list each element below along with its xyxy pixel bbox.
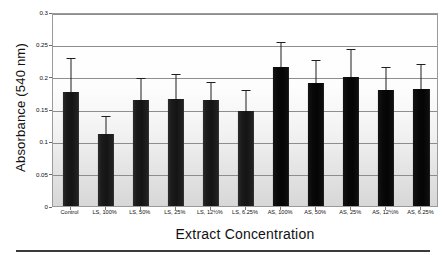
- error-bar-cap: [66, 58, 75, 59]
- x-axis-tick-mark: [350, 207, 351, 210]
- bar: [98, 134, 114, 206]
- x-axis-tick-mark: [210, 207, 211, 210]
- x-axis-tick-label: Control: [52, 210, 87, 216]
- error-bar-cap: [382, 67, 391, 68]
- bar-group: [299, 12, 334, 206]
- bar-group: [193, 12, 228, 206]
- bar-group: [264, 12, 299, 206]
- x-axis-tick-mark: [420, 207, 421, 210]
- x-axis-tick-mark: [140, 207, 141, 210]
- bar-group: [334, 12, 369, 206]
- error-bar-whisker: [316, 61, 317, 82]
- error-bar-whisker: [70, 59, 71, 91]
- footer-rule: [16, 250, 430, 252]
- x-axis-tick-label: LS, 50%: [122, 210, 157, 216]
- error-bar-cap: [171, 74, 180, 75]
- x-axis-tick-mark: [245, 207, 246, 210]
- y-axis-tick-label: 0: [8, 204, 48, 210]
- bar-chart-figure: Absorbance (540 nm) 00.050.10.150.20.250…: [0, 0, 446, 255]
- y-axis-tick-label: 0.3: [8, 10, 48, 16]
- error-bar-whisker: [140, 79, 141, 100]
- bar-group: [369, 12, 404, 206]
- x-axis-tick-label: AS, 100%: [263, 210, 298, 216]
- x-axis-tick-mark: [105, 207, 106, 210]
- bar-series: [53, 14, 437, 206]
- error-bar-whisker: [421, 65, 422, 89]
- bar: [273, 67, 289, 206]
- x-axis-tick-mark: [385, 207, 386, 210]
- bar-group: [404, 12, 439, 206]
- error-bar-whisker: [351, 50, 352, 77]
- error-bar-whisker: [281, 43, 282, 67]
- error-bar-cap: [101, 116, 110, 117]
- error-bar-whisker: [210, 83, 211, 100]
- error-bar-cap: [417, 64, 426, 65]
- error-bar-cap: [136, 78, 145, 79]
- error-bar-whisker: [175, 75, 176, 99]
- bar: [308, 83, 324, 207]
- x-axis-tick-mark: [175, 207, 176, 210]
- plot-area: [52, 13, 438, 207]
- x-axis-tick-label: LS, 6.25%: [227, 210, 262, 216]
- x-axis-tick-label: LS, 25%: [157, 210, 192, 216]
- x-axis-tick-label: AS, 12½%: [368, 210, 403, 216]
- error-bar-whisker: [105, 117, 106, 134]
- bar: [203, 100, 219, 206]
- error-bar-whisker: [245, 91, 246, 111]
- x-axis-tick-mark: [315, 207, 316, 210]
- bar: [238, 111, 254, 206]
- bar-group: [53, 12, 88, 206]
- y-axis-tick-label: 0.2: [8, 75, 48, 81]
- x-axis-tick-mark: [70, 207, 71, 210]
- y-axis-tick-label: 0.25: [8, 42, 48, 48]
- x-axis-tick-label: AS, 50%: [298, 210, 333, 216]
- x-axis-title: Extract Concentration: [52, 226, 438, 242]
- error-bar-cap: [312, 60, 321, 61]
- x-axis-tick-mark: [280, 207, 281, 210]
- bar: [133, 100, 149, 206]
- x-axis-tick-label: AS, 25%: [333, 210, 368, 216]
- bar: [378, 90, 394, 206]
- y-axis-tick-label: 0.1: [8, 139, 48, 145]
- bar: [413, 89, 429, 206]
- y-axis-tick-label: 0.15: [8, 107, 48, 113]
- bar-group: [123, 12, 158, 206]
- y-axis-tick-label: 0.05: [8, 172, 48, 178]
- bar: [168, 99, 184, 206]
- x-axis-tick-label: LS, 12½%: [192, 210, 227, 216]
- error-bar-cap: [241, 90, 250, 91]
- error-bar-whisker: [386, 68, 387, 90]
- x-axis-tick-label: AS, 6.25%: [403, 210, 438, 216]
- error-bar-cap: [277, 42, 286, 43]
- x-axis-tick-label: LS, 100%: [87, 210, 122, 216]
- bar-group: [88, 12, 123, 206]
- bar: [343, 77, 359, 206]
- error-bar-cap: [347, 49, 356, 50]
- bar: [62, 92, 78, 206]
- error-bar-cap: [206, 82, 215, 83]
- bar-group: [158, 12, 193, 206]
- bar-group: [228, 12, 263, 206]
